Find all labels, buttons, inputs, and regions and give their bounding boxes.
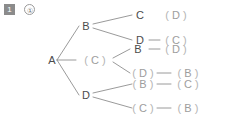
edge-c-b — [113, 49, 130, 58]
node-level1-b: B — [82, 21, 89, 32]
node-level1-c: ( C ) — [84, 55, 105, 66]
node-level3-row5: ( C ) — [177, 79, 198, 90]
edge-a-b — [57, 26, 79, 60]
tree-edges — [0, 0, 229, 117]
edge-b-d — [93, 28, 132, 40]
node-level2-row5: ( B ) — [133, 79, 154, 90]
tree-diagram-figure: 1 ① — [0, 0, 229, 117]
node-level2-row1: C — [136, 10, 144, 21]
node-level3-row1: ( D ) — [165, 10, 186, 21]
edge-d-c — [93, 97, 132, 108]
node-root-a: A — [48, 55, 55, 66]
node-level3-row3: ( D ) — [165, 44, 186, 55]
node-level3-row6: ( B ) — [178, 103, 199, 114]
edge-d-b — [93, 84, 132, 93]
node-level2-row6: ( C ) — [132, 103, 153, 114]
edge-a-d — [57, 60, 79, 95]
node-level1-d: D — [82, 90, 90, 101]
edge-c-d — [113, 62, 130, 73]
edge-b-c — [93, 15, 132, 24]
node-level2-row3: B — [134, 44, 141, 55]
